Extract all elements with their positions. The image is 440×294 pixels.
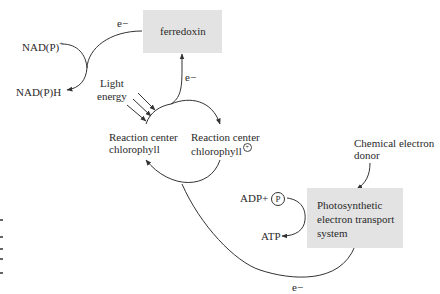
electron-transport-box: Photosynthetic electron transport system — [307, 188, 403, 248]
nadp-plus-connector — [62, 44, 87, 68]
margin-mark-4 — [0, 258, 3, 260]
ferredoxin-box: ferredoxin — [143, 10, 222, 53]
light-energy-label-2: energy — [97, 90, 127, 103]
positive-charge-icon: + — [243, 143, 252, 152]
phosphate-icon: P — [271, 192, 285, 206]
e-minus-label-2: e− — [185, 71, 196, 84]
ets-label-line-3: system — [317, 226, 348, 240]
e-minus-label-3: e− — [292, 281, 303, 294]
ets-label-line-1: Photosynthetic — [317, 198, 382, 212]
rc-cycle-top-arc — [171, 100, 220, 124]
ets-label-line-2: electron transport — [317, 212, 394, 226]
nadph-label: NAD(P)H — [16, 86, 61, 99]
light-ray-3 — [127, 105, 146, 121]
margin-mark-1 — [0, 219, 3, 221]
donor-to-ets-arrow — [357, 163, 370, 189]
light-energy-label-1: Light — [100, 77, 124, 90]
margin-mark-3 — [0, 248, 3, 250]
rc-to-ferredoxin-arrow — [171, 54, 182, 104]
rc-chlorophyll-label-2: chlorophyll — [109, 143, 160, 156]
rc-cycle-leftup-arc — [146, 104, 171, 124]
light-ray-2 — [133, 99, 151, 116]
adp-to-atp-arrow — [282, 198, 305, 236]
rc-chlorophyll-ox-label-2: chlorophyll+ — [191, 143, 252, 158]
nadp-plus-label: NAD(P)+ — [22, 38, 63, 54]
rc-cycle-left-arc — [146, 160, 220, 183]
e-minus-label-1: e− — [117, 17, 128, 30]
margin-mark-5 — [0, 272, 3, 274]
light-ray-1 — [138, 93, 155, 110]
chemical-donor-label-2: donor — [354, 149, 380, 162]
atp-label: ATP — [261, 230, 281, 243]
adp-label: ADP+ P — [240, 192, 285, 206]
margin-mark-2 — [0, 236, 3, 238]
ferredoxin-label: ferredoxin — [160, 24, 206, 38]
